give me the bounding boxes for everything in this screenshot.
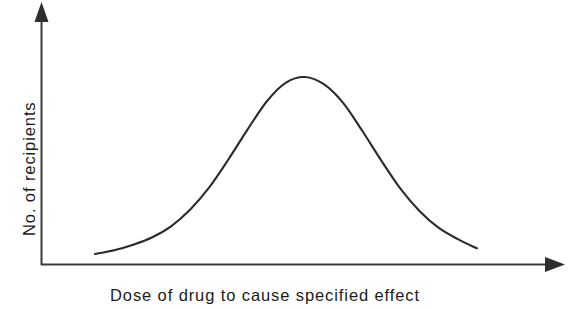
- chart-plot-area: [0, 0, 570, 309]
- distribution-curve: [95, 77, 477, 254]
- y-axis-arrow-icon: [35, 2, 49, 22]
- chart-figure: No. of recipients Dose of drug to cause …: [0, 0, 570, 309]
- x-axis-arrow-icon: [545, 257, 565, 272]
- y-axis-label: No. of recipients: [20, 101, 39, 236]
- x-axis-label: Dose of drug to cause specified effect: [110, 286, 420, 305]
